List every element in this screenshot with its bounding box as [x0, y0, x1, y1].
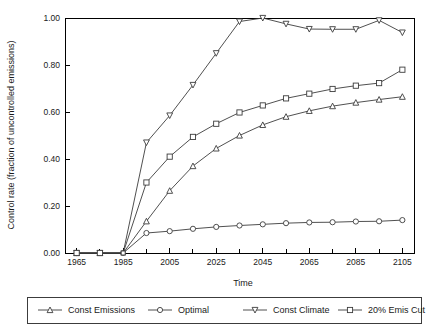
- data-point-marker: [353, 83, 358, 88]
- x-tick-label: 2045: [253, 257, 272, 267]
- data-point-marker: [167, 229, 172, 234]
- y-axis-title: Control rate (fraction of uncontrolled e…: [6, 40, 16, 229]
- x-axis-title: Time: [233, 278, 253, 288]
- data-point-marker: [260, 222, 265, 227]
- y-tick-label: 0.60: [43, 107, 60, 117]
- data-point-marker: [283, 221, 288, 226]
- legend-item-label: Const Climate: [273, 305, 330, 315]
- data-point-marker: [144, 180, 149, 185]
- y-tick-label: 0.00: [43, 248, 60, 258]
- data-point-marker: [377, 80, 382, 85]
- y-tick-label: 1.00: [43, 13, 60, 23]
- data-point-marker: [237, 133, 243, 139]
- x-tick-label: 1985: [114, 257, 133, 267]
- data-point-marker: [377, 219, 382, 224]
- y-tick-label: 0.40: [43, 154, 60, 164]
- emissions-control-rate-chart: 19651985200520252045206520852105 0.000.2…: [0, 0, 430, 331]
- data-point-marker: [260, 122, 266, 128]
- x-tick-label: 2105: [393, 257, 412, 267]
- data-point-marker: [190, 163, 196, 169]
- data-point-marker: [400, 218, 405, 223]
- data-point-marker: [121, 251, 125, 255]
- data-point-marker: [260, 103, 265, 108]
- legend-item-label: Optimal: [178, 305, 209, 315]
- series-const-emissions: [74, 94, 406, 256]
- x-tick-label: 1965: [67, 257, 86, 267]
- x-axis-tick-labels: 19651985200520252045206520852105: [67, 257, 412, 267]
- data-point-marker: [214, 224, 219, 229]
- data-point-marker: [307, 220, 312, 225]
- data-point-marker: [307, 91, 312, 96]
- chart-legend: Const EmissionsOptimalConst Climate20% E…: [27, 297, 426, 323]
- x-tick-label: 2025: [207, 257, 226, 267]
- data-point-marker: [144, 140, 150, 146]
- series-line: [77, 97, 403, 253]
- legend-item-label: Const Emissions: [68, 305, 136, 315]
- y-axis-ticks: [65, 18, 70, 253]
- data-series-group: [74, 15, 406, 256]
- data-point-marker: [74, 250, 79, 255]
- data-point-marker: [400, 67, 405, 72]
- chart-figure: 19651985200520252045206520852105 0.000.2…: [0, 0, 430, 331]
- data-point-marker: [237, 110, 242, 115]
- data-point-marker: [330, 220, 335, 225]
- legend-item-label: 20% Emis Cut: [368, 305, 426, 315]
- data-point-marker: [283, 96, 288, 101]
- y-axis-tick-labels: 0.000.200.400.600.801.00: [43, 13, 60, 258]
- data-point-marker: [157, 307, 162, 312]
- data-point-marker: [214, 121, 219, 126]
- data-point-marker: [347, 307, 352, 312]
- data-point-marker: [167, 154, 172, 159]
- data-point-marker: [353, 219, 358, 224]
- data-point-marker: [190, 134, 195, 139]
- y-tick-label: 0.80: [43, 60, 60, 70]
- data-point-marker: [190, 226, 195, 231]
- data-point-marker: [144, 230, 149, 235]
- x-tick-label: 2005: [160, 257, 179, 267]
- data-point-marker: [399, 30, 405, 36]
- data-point-marker: [237, 223, 242, 228]
- data-point-marker: [97, 250, 102, 255]
- x-tick-label: 2065: [300, 257, 319, 267]
- x-tick-label: 2085: [346, 257, 365, 267]
- y-tick-label: 0.20: [43, 201, 60, 211]
- data-point-marker: [376, 18, 382, 24]
- data-point-marker: [213, 145, 219, 151]
- data-point-marker: [330, 86, 335, 91]
